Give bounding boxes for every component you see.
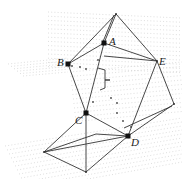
trail-dot (85, 68, 87, 70)
trail-dot (116, 112, 118, 114)
edge-left-bottom (44, 152, 86, 172)
middle-plane-dotline (73, 89, 182, 99)
label-A: A (108, 35, 116, 47)
edge-A-C (86, 43, 104, 113)
trail-dot (79, 66, 81, 68)
trail-dot (110, 97, 112, 99)
vertex-C-marker (84, 111, 89, 116)
edge-bottom-D (86, 136, 128, 172)
edge-C-D (86, 113, 128, 136)
trail-dot (71, 65, 73, 67)
edge-mid-D (96, 134, 128, 136)
label-C: C (75, 114, 83, 126)
middle-plane-dotline (71, 67, 183, 77)
label-B: B (57, 56, 64, 68)
edge-A-B (68, 43, 104, 64)
lower-plane-dotline (13, 134, 182, 162)
lower-plane-dotline (27, 162, 182, 179)
middle-plane-dotline (73, 85, 183, 95)
edge-E-D (128, 61, 157, 136)
trail-dot (92, 101, 94, 103)
vertex-A-marker (102, 41, 107, 46)
middle-plane-dotline (72, 76, 183, 86)
middle-plane-dotline (71, 71, 182, 81)
left-plane-dotline (20, 69, 68, 73)
vertex-right (173, 103, 175, 105)
trail-dot (122, 120, 124, 122)
inner-staircase (98, 68, 110, 90)
lower-plane-dotline (7, 122, 182, 150)
lower-plane-dotline (17, 142, 182, 170)
trail-dot (130, 126, 132, 128)
vertex-E (156, 60, 158, 62)
vertex-apex (115, 13, 117, 15)
middle-plane-dotline (74, 98, 182, 108)
vertex-left-low (43, 151, 45, 153)
trail-dot (116, 102, 118, 104)
vertex-D-marker (126, 134, 131, 139)
label-E: E (158, 55, 166, 67)
lower-plane-dotline (9, 126, 182, 154)
edge-right-D2 (124, 106, 172, 128)
edge-right-D (128, 104, 174, 136)
label-D: D (130, 136, 139, 148)
trail-dot (97, 59, 99, 61)
lower-plane-dotline (5, 118, 182, 146)
vertex-bottom (85, 171, 87, 173)
geometry-figure: A B E C D (0, 0, 185, 179)
edge-E-right (157, 61, 174, 104)
diagram: A B E C D (0, 0, 185, 179)
middle-plane-dotline (75, 103, 183, 113)
vertex-B-marker (66, 62, 71, 67)
lower-plane-dotline (25, 158, 182, 179)
lower-plane-dotline (21, 150, 182, 178)
